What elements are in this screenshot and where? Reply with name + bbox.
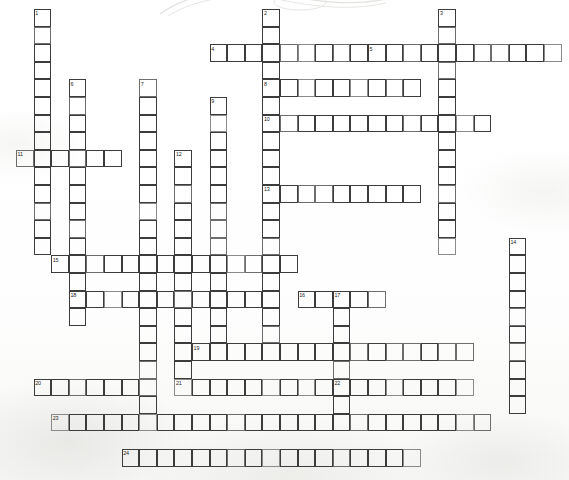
crossword-cell[interactable] — [210, 203, 228, 221]
crossword-cell[interactable] — [438, 203, 456, 221]
crossword-cell[interactable] — [386, 185, 404, 203]
crossword-cell[interactable] — [333, 44, 351, 62]
crossword-cell[interactable] — [438, 9, 456, 27]
crossword-cell[interactable] — [139, 414, 157, 432]
crossword-cell[interactable] — [245, 449, 263, 467]
crossword-cell[interactable] — [403, 343, 421, 361]
crossword-cell[interactable] — [298, 44, 316, 62]
crossword-cell[interactable] — [333, 79, 351, 97]
crossword-cell[interactable] — [192, 291, 210, 309]
crossword-cell[interactable] — [262, 167, 280, 185]
crossword-cell[interactable] — [34, 44, 52, 62]
crossword-cell[interactable] — [368, 115, 386, 133]
crossword-cell[interactable] — [174, 326, 192, 344]
crossword-cell[interactable] — [69, 203, 87, 221]
crossword-cell[interactable] — [210, 238, 228, 256]
crossword-cell[interactable] — [298, 449, 316, 467]
crossword-cell[interactable] — [139, 167, 157, 185]
crossword-cell[interactable] — [403, 414, 421, 432]
crossword-cell[interactable] — [526, 44, 544, 62]
crossword-cell[interactable] — [315, 185, 333, 203]
crossword-cell[interactable] — [438, 414, 456, 432]
crossword-cell[interactable] — [69, 379, 87, 397]
crossword-cell[interactable] — [438, 27, 456, 45]
crossword-cell[interactable] — [210, 291, 228, 309]
crossword-cell[interactable] — [350, 343, 368, 361]
crossword-cell[interactable] — [122, 379, 140, 397]
crossword-cell[interactable] — [438, 343, 456, 361]
crossword-cell[interactable] — [139, 132, 157, 150]
crossword-cell[interactable] — [139, 115, 157, 133]
crossword-cell[interactable] — [34, 220, 52, 238]
crossword-cell[interactable] — [174, 414, 192, 432]
crossword-cell[interactable] — [210, 220, 228, 238]
crossword-cell[interactable] — [509, 44, 527, 62]
crossword-cell[interactable] — [298, 379, 316, 397]
crossword-cell[interactable] — [139, 379, 157, 397]
crossword-cell[interactable] — [210, 115, 228, 133]
crossword-cell[interactable] — [69, 414, 87, 432]
crossword-cell[interactable] — [509, 343, 527, 361]
crossword-cell[interactable] — [368, 291, 386, 309]
crossword-cell[interactable] — [262, 308, 280, 326]
crossword-cell[interactable] — [227, 291, 245, 309]
crossword-cell[interactable] — [509, 273, 527, 291]
crossword-cell[interactable] — [104, 291, 122, 309]
crossword-cell[interactable] — [122, 255, 140, 273]
crossword-cell[interactable] — [386, 414, 404, 432]
crossword-cell[interactable] — [227, 414, 245, 432]
crossword-cell[interactable] — [298, 414, 316, 432]
crossword-cell[interactable] — [210, 255, 228, 273]
crossword-cell[interactable] — [51, 255, 69, 273]
crossword-cell[interactable] — [227, 255, 245, 273]
crossword-cell[interactable] — [262, 291, 280, 309]
crossword-cell[interactable] — [333, 115, 351, 133]
crossword-cell[interactable] — [174, 273, 192, 291]
crossword-cell[interactable] — [139, 291, 157, 309]
crossword-cell[interactable] — [174, 238, 192, 256]
crossword-cell[interactable] — [438, 238, 456, 256]
crossword-cell[interactable] — [262, 185, 280, 203]
crossword-cell[interactable] — [174, 291, 192, 309]
crossword-cell[interactable] — [157, 291, 175, 309]
crossword-cell[interactable] — [174, 185, 192, 203]
crossword-cell[interactable] — [333, 414, 351, 432]
crossword-cell[interactable] — [368, 379, 386, 397]
crossword-cell[interactable] — [280, 255, 298, 273]
crossword-cell[interactable] — [86, 255, 104, 273]
crossword-cell[interactable] — [174, 379, 192, 397]
crossword-cell[interactable] — [315, 343, 333, 361]
crossword-cell[interactable] — [245, 343, 263, 361]
crossword-cell[interactable] — [298, 343, 316, 361]
crossword-cell[interactable] — [262, 379, 280, 397]
crossword-cell[interactable] — [69, 150, 87, 168]
crossword-cell[interactable] — [509, 379, 527, 397]
crossword-cell[interactable] — [210, 308, 228, 326]
crossword-cell[interactable] — [262, 9, 280, 27]
crossword-cell[interactable] — [438, 185, 456, 203]
crossword-cell[interactable] — [51, 379, 69, 397]
crossword-cell[interactable] — [69, 238, 87, 256]
crossword-cell[interactable] — [34, 167, 52, 185]
crossword-cell[interactable] — [333, 379, 351, 397]
crossword-cell[interactable] — [474, 414, 492, 432]
crossword-cell[interactable] — [174, 203, 192, 221]
crossword-cell[interactable] — [456, 44, 474, 62]
crossword-cell[interactable] — [122, 449, 140, 467]
crossword-cell[interactable] — [192, 343, 210, 361]
crossword-cell[interactable] — [280, 115, 298, 133]
crossword-cell[interactable] — [86, 150, 104, 168]
crossword-cell[interactable] — [421, 115, 439, 133]
crossword-cell[interactable] — [403, 379, 421, 397]
crossword-cell[interactable] — [280, 343, 298, 361]
crossword-cell[interactable] — [509, 291, 527, 309]
crossword-cell[interactable] — [139, 255, 157, 273]
crossword-cell[interactable] — [438, 62, 456, 80]
crossword-cell[interactable] — [262, 97, 280, 115]
crossword-cell[interactable] — [174, 449, 192, 467]
crossword-cell[interactable] — [456, 379, 474, 397]
crossword-cell[interactable] — [174, 343, 192, 361]
crossword-cell[interactable] — [139, 185, 157, 203]
crossword-cell[interactable] — [86, 414, 104, 432]
crossword-cell[interactable] — [333, 326, 351, 344]
